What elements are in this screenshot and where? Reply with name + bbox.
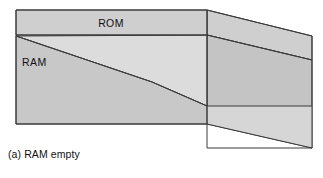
inner-floor	[207, 106, 312, 148]
rom-label: ROM	[98, 17, 124, 29]
figure-caption: (a) RAM empty	[8, 148, 80, 160]
figure-ram-empty: ROM RAM (a) RAM empty	[0, 0, 323, 178]
ram-label: RAM	[22, 56, 47, 68]
